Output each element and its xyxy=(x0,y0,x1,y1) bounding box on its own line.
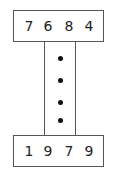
top-digit: 6 xyxy=(42,17,54,35)
top-number-box: 7 6 8 4 xyxy=(13,10,104,42)
bottom-number-box: 1 9 7 9 xyxy=(13,135,104,167)
bottom-digit: 9 xyxy=(42,142,54,160)
ellipsis-dot xyxy=(58,78,63,83)
top-digit: 7 xyxy=(23,17,35,35)
ellipsis-dot xyxy=(58,100,63,105)
bottom-digit: 1 xyxy=(23,142,35,160)
ellipsis-dot xyxy=(58,118,63,123)
bottom-digit: 7 xyxy=(63,142,75,160)
top-digit: 8 xyxy=(63,17,75,35)
top-digit: 4 xyxy=(83,17,95,35)
bottom-digit: 9 xyxy=(83,142,95,160)
ellipsis-dot xyxy=(58,56,63,61)
